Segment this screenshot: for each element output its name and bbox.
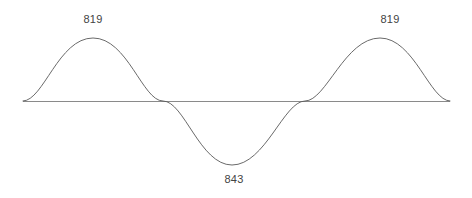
chart-canvas: 819 843 819 [0, 0, 472, 198]
data-label-peak-left: 819 [84, 13, 103, 26]
sine-wave-plot [0, 0, 472, 198]
data-label-trough: 843 [225, 173, 244, 186]
data-label-peak-right: 819 [381, 13, 400, 26]
